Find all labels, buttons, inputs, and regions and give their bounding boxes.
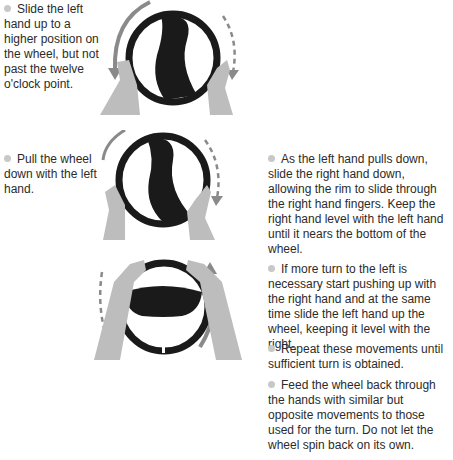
steering-wheel-illustration-1 (95, 0, 255, 115)
step-2-text: Pull the wheel down with the left hand. (4, 152, 99, 197)
bullet-icon (4, 155, 11, 162)
right-hand (186, 260, 242, 360)
arrow-head-icon (211, 196, 223, 206)
right-hand (187, 185, 215, 240)
figure-left-hand-slides-up (95, 0, 255, 115)
step-3-label: As the left hand pulls down, slide the r… (268, 152, 443, 256)
step-5-text: Repeat these movements until sufficient … (268, 342, 450, 372)
bullet-icon (268, 265, 275, 272)
step-6-label: Feed the wheel back through the hands wi… (268, 378, 436, 452)
step-4-label: If more turn to the left is necessary st… (268, 262, 436, 351)
wheel-spoke (155, 16, 197, 100)
step-1-label: Slide the left hand up to a higher posit… (4, 2, 99, 91)
step-2-label: Pull the wheel down with the left hand. (4, 152, 97, 196)
bullet-icon (268, 381, 275, 388)
step-4-text: If more turn to the left is necessary st… (268, 262, 450, 352)
right-hand (207, 60, 233, 115)
step-3-text: As the left hand pulls down, slide the r… (268, 152, 448, 257)
figure-right-hand-pushes-up (92, 252, 257, 362)
steering-wheel-illustration-2 (95, 130, 235, 240)
steering-wheel-illustration-3 (92, 252, 257, 362)
figure-left-hand-pulls-down (95, 130, 235, 240)
arrow-left-arc (103, 130, 125, 160)
step-1-text: Slide the left hand up to a higher posit… (4, 2, 104, 92)
wheel-hub (124, 286, 202, 317)
step-6-text: Feed the wheel back through the hands wi… (268, 378, 450, 453)
bullet-icon (268, 345, 275, 352)
wheel-center-mark (162, 347, 165, 353)
step-5-label: Repeat these movements until sufficient … (268, 342, 443, 371)
left-hand (100, 60, 140, 115)
wheel-spoke (147, 138, 193, 222)
bullet-icon (268, 155, 275, 162)
bullet-icon (4, 5, 11, 12)
